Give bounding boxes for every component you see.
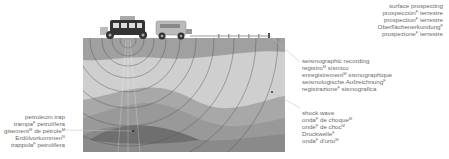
vibrator-truck — [100, 16, 147, 39]
term-de: ErdölvorkommenN — [4, 134, 65, 141]
label-surface-prospecting: surface prospecting prospecciónF terrest… — [378, 2, 443, 37]
term-en: petroleum trap — [4, 113, 65, 120]
term-it: trappolaF petrolifera — [4, 141, 65, 148]
term-it: ondaF d'urtoM — [302, 137, 352, 144]
recording-truck — [156, 21, 192, 40]
term-fr: prospectionF terrestre — [378, 16, 443, 23]
term-en: surface prospecting — [378, 2, 443, 9]
term-it: registrazioneF sismografica — [302, 85, 392, 92]
label-seismographic-recording: seismographic recording registroM sísmic… — [302, 57, 392, 92]
term-es: ondaF de choqueM — [302, 116, 352, 123]
label-petroleum-trap: petroleum trap trampaF petrolífera gisem… — [4, 113, 65, 148]
term-fr: gisementM de pétroleM — [4, 127, 65, 134]
label-shock-wave: shock wave ondaF de choqueM ondeF de cho… — [302, 109, 352, 144]
term-fr: enregistrementM sismographique — [302, 71, 392, 78]
geophone-cable — [190, 33, 270, 38]
term-en: shock wave — [302, 109, 352, 116]
term-it: prospezioneF terrestre — [378, 30, 443, 37]
term-de: OberflächenerkundungF — [378, 23, 443, 30]
term-es: prospecciónF terrestre — [378, 9, 443, 16]
term-en: seismographic recording — [302, 57, 392, 64]
term-de: DruckwelleF — [302, 130, 352, 137]
term-es: trampaF petrolífera — [4, 120, 65, 127]
term-fr: ondeF de chocM — [302, 123, 352, 130]
term-de: seismologische AufzeichnungF — [302, 78, 392, 85]
term-es: registroM sísmico — [302, 64, 392, 71]
